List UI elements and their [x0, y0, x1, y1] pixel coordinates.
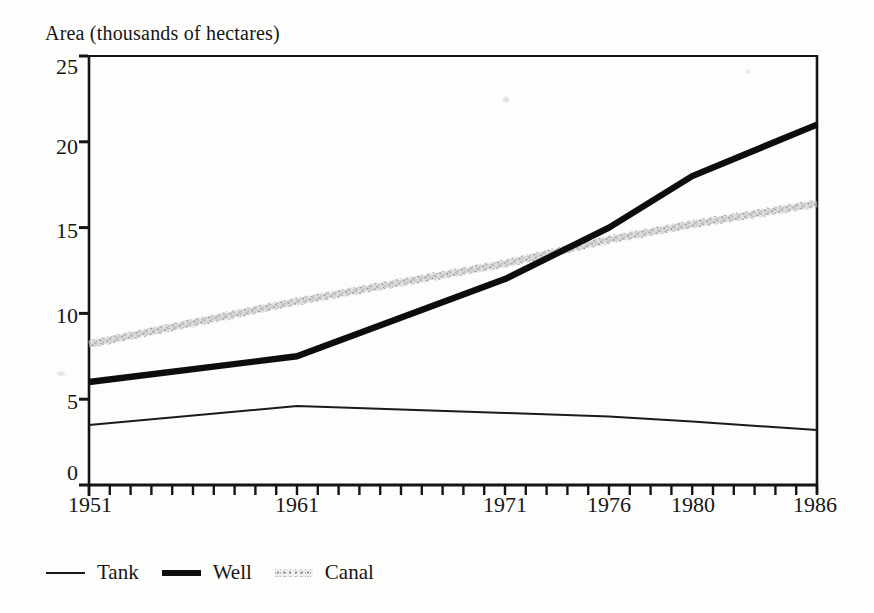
chart-canvas	[0, 0, 874, 613]
y-tick-label-5: 5	[28, 389, 78, 415]
legend-swatch-tank-line	[46, 572, 85, 574]
legend-label-tank: Tank	[97, 560, 139, 585]
scan-speck	[57, 372, 65, 375]
legend-swatch-well-line	[162, 570, 201, 576]
legend-label-well: Well	[213, 560, 252, 585]
x-tick-label-1986: 1986	[793, 492, 837, 518]
legend-swatch-canal-line	[275, 569, 313, 577]
y-tick-label-25: 25	[28, 54, 78, 80]
y-tick-label-0: 0	[28, 460, 78, 486]
series-line-tank	[89, 406, 817, 430]
x-tick-label-1961: 1961	[275, 492, 319, 518]
y-tick-label-20: 20	[28, 134, 78, 160]
x-tick-label-1976: 1976	[587, 492, 631, 518]
x-tick-label-1951: 1951	[68, 492, 112, 518]
scan-speck	[503, 97, 509, 102]
figure-root: Area (thousands of hectares) 25 20 15 10…	[0, 0, 874, 613]
x-tick-label-1980: 1980	[671, 492, 715, 518]
legend: Tank Well Canal	[46, 560, 374, 585]
chart-plot-area	[0, 0, 874, 613]
y-tick-label-10: 10	[28, 303, 78, 329]
scan-speck	[746, 70, 750, 73]
series-line-canal	[89, 204, 817, 345]
x-tick-label-1971: 1971	[483, 492, 527, 518]
y-tick-label-15: 15	[28, 218, 78, 244]
series-line-well	[89, 125, 817, 382]
legend-label-canal: Canal	[325, 560, 374, 585]
